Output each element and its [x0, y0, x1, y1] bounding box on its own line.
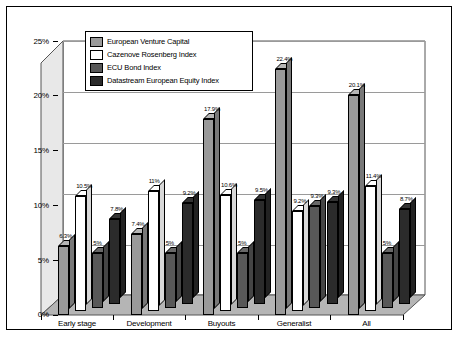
x-category-label: Buyouts — [185, 319, 258, 328]
bar — [327, 202, 338, 304]
y-tick — [53, 205, 58, 206]
legend-item: Cazenove Rosenberg Index — [90, 48, 248, 61]
bar-value-label: 6.3% — [59, 233, 72, 239]
bar — [237, 253, 248, 308]
bar-side-face — [86, 184, 92, 305]
bar-front — [309, 206, 320, 308]
bar-front — [203, 119, 214, 315]
bar — [182, 203, 193, 304]
bar — [75, 196, 86, 311]
bar — [309, 206, 320, 308]
bar-front — [254, 200, 265, 304]
bar-front — [399, 209, 410, 304]
bar-side-face — [286, 57, 292, 309]
bar-value-label: 10.5% — [76, 183, 92, 189]
bar-side-face — [69, 234, 75, 309]
bar-front — [327, 202, 338, 304]
bar-value-label: 9.5% — [255, 187, 268, 193]
legend-item: Datastream European Equity Index — [90, 74, 248, 87]
bar-front — [348, 95, 359, 315]
bar — [348, 95, 359, 315]
bar — [58, 246, 69, 315]
y-tick-label: 10% — [15, 201, 49, 210]
legend-label: ECU Bond Index — [107, 63, 161, 72]
bar-value-label: 9.3% — [310, 193, 323, 199]
bar — [292, 211, 303, 312]
bar-side-face — [376, 174, 382, 305]
chart-legend: European Venture Capital Cazenove Rosenb… — [85, 31, 253, 91]
bar-side-face — [393, 241, 399, 302]
gridline — [63, 143, 425, 144]
bar — [131, 234, 142, 315]
y-tick — [53, 150, 58, 151]
legend-item: ECU Bond Index — [90, 61, 248, 74]
y-tick-label: 25% — [15, 37, 49, 46]
bar — [92, 253, 103, 308]
bar-front — [182, 203, 193, 304]
bar-value-label: 7.4% — [132, 221, 145, 227]
bar-value-label: 9.2% — [183, 190, 196, 196]
y-tick-label: 15% — [15, 146, 49, 155]
x-category-label: Development — [113, 319, 185, 328]
bar-front — [131, 234, 142, 315]
bar-side-face — [120, 207, 126, 298]
y-tick — [53, 95, 58, 96]
gridline — [63, 92, 425, 93]
bar-side-face — [410, 197, 416, 298]
bar-value-label: 17.9% — [204, 106, 220, 112]
x-category-label: Generalist — [258, 319, 330, 328]
legend-swatch-icon — [90, 37, 103, 47]
bar-front — [365, 186, 376, 311]
bar-side-face — [303, 199, 309, 306]
bar-side-face — [265, 188, 271, 298]
bar-front — [92, 253, 103, 308]
bar-value-label: 5% — [238, 240, 246, 246]
bar-front — [75, 196, 86, 311]
bar-value-label: 10.6% — [221, 182, 237, 188]
bar-side-face — [193, 191, 199, 298]
bar — [275, 69, 286, 315]
x-category-label: Early stage — [41, 319, 113, 328]
legend-label: Datastream European Equity Index — [107, 76, 219, 85]
legend-item: European Venture Capital — [90, 35, 248, 48]
x-tick — [403, 315, 404, 320]
bar-value-label: 8.7% — [400, 196, 413, 202]
bar-value-label: 11% — [149, 178, 160, 184]
chart-frame: 25% 20% 15% 10% 5% 0% 6.3%10.5%5%7.8%7.4… — [6, 6, 452, 330]
bar-value-label: 11.4% — [366, 173, 382, 179]
bar-front — [237, 253, 248, 308]
bar — [109, 219, 120, 304]
x-category-label: All — [330, 319, 403, 328]
bar-value-label: 5% — [166, 240, 174, 246]
y-tick-label: 5% — [15, 256, 49, 265]
bar-side-face — [214, 107, 220, 309]
bar-side-face — [338, 190, 344, 298]
bar — [365, 186, 376, 311]
bar-chart: 25% 20% 15% 10% 5% 0% 6.3%10.5%5%7.8%7.4… — [7, 7, 453, 331]
bar-side-face — [320, 194, 326, 302]
bar-front — [165, 253, 176, 308]
bar-front — [382, 253, 393, 308]
bar-value-label: 9.3% — [328, 189, 341, 195]
bar-value-label: 22.4% — [276, 56, 292, 62]
bar — [382, 253, 393, 308]
bar — [220, 195, 231, 311]
bar-side-face — [142, 222, 148, 309]
legend-swatch-icon — [90, 76, 103, 86]
bar-value-label: 5% — [383, 240, 391, 246]
bar-front — [148, 191, 159, 312]
bar — [254, 200, 265, 304]
bar-front — [275, 69, 286, 315]
bar-value-label: 20.1% — [349, 82, 365, 88]
legend-label: European Venture Capital — [107, 37, 189, 46]
bar — [165, 253, 176, 308]
bar-front — [58, 246, 69, 315]
bar-side-face — [231, 183, 237, 305]
legend-swatch-icon — [90, 63, 103, 73]
bar-front — [292, 211, 303, 312]
legend-swatch-icon — [90, 50, 103, 60]
bar-side-face — [159, 179, 165, 306]
bar-side-face — [103, 241, 109, 302]
bar-side-face — [359, 83, 365, 309]
y-tick — [53, 41, 58, 42]
